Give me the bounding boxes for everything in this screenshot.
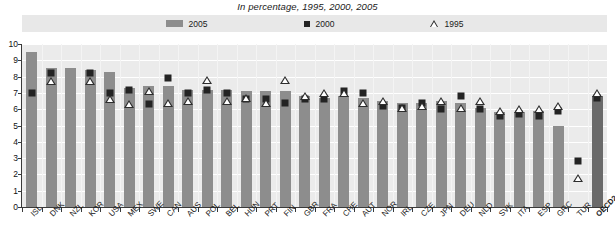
vertical-gridline [510,44,511,207]
bar-grc [553,126,564,208]
y-axis-tick-label: 2 [2,169,18,179]
vertical-gridline [42,44,43,207]
marker-1995-gbr [300,92,310,100]
marker-1995-bel [222,97,232,105]
y-axis-tick-label: 6 [2,104,18,114]
bar-swatch-icon [166,20,183,27]
vertical-gridline [178,44,179,207]
y-axis-tick [18,93,22,94]
legend-item-2005: 2005 [166,19,208,29]
bar-aus [182,90,193,207]
marker-2000-aut [360,89,367,96]
bar-irl [397,103,408,207]
marker-2000-kor [87,70,94,77]
marker-1995-mex [124,100,134,108]
bar-prt [260,91,271,207]
y-axis-tick [18,158,22,159]
marker-2000-swe [145,101,152,108]
marker-1995-swe [144,87,154,95]
bar-che [338,96,349,207]
vertical-gridline [61,44,62,207]
bar-kor [85,70,96,207]
vertical-gridline [490,44,491,207]
marker-1995-deu [456,104,466,112]
y-axis-tick-label: 7 [2,88,18,98]
vertical-gridline [568,44,569,207]
marker-2000-tur [574,158,581,165]
x-axis-tick [22,208,23,212]
bar-bel [221,90,232,207]
vertical-gridline [81,44,82,207]
vertical-gridline [295,44,296,207]
marker-1995-cze [417,102,427,110]
marker-1995-oecd24 [592,89,602,97]
y-axis-tick [18,77,22,78]
marker-1995-aus [183,97,193,105]
vertical-gridline [139,44,140,207]
y-axis-tick [18,126,22,127]
vertical-gridline [588,44,589,207]
bar-hun [241,91,252,207]
bar-nor [377,101,388,207]
bar-pol [202,90,213,207]
y-axis-tick-label: 10 [2,39,18,49]
marker-1995-prt [261,99,271,107]
legend-item-2000: 2000 [304,19,335,29]
y-axis-tick-label: 0 [2,202,18,212]
bar-esp [533,111,544,207]
vertical-gridline [393,44,394,207]
y-axis-tick [18,109,22,110]
chart-legend: 2005 2000 1995 [22,15,607,32]
marker-2000-nld [477,106,484,113]
plot-area [22,44,607,207]
marker-1995-nor [378,97,388,105]
bar-nld [475,108,486,207]
marker-1995-ita [514,105,524,113]
vertical-gridline [432,44,433,207]
marker-1995-grc [553,102,563,110]
vertical-gridline [159,44,160,207]
bar-svk [494,112,505,207]
y-axis-tick [18,174,22,175]
marker-1995-tur [573,174,583,182]
y-axis-tick [18,191,22,192]
bar-fin [280,91,291,207]
legend-label-1995: 1995 [444,19,463,29]
legend-item-1995: 1995 [430,19,463,29]
vertical-gridline [451,44,452,207]
vertical-gridline [237,44,238,207]
marker-2000-can [165,75,172,82]
vertical-gridline [256,44,257,207]
marker-1995-fin [280,76,290,84]
bar-cze [416,103,427,207]
legend-label-2000: 2000 [316,19,335,29]
y-axis-tick-label: 9 [2,55,18,65]
marker-2000-isl [28,89,35,96]
marker-1995-jpn [436,97,446,105]
marker-1995-nld [475,97,485,105]
marker-2000-dnk [48,70,55,77]
marker-2000-deu [457,93,464,100]
marker-2000-jpn [438,106,445,113]
vertical-gridline [529,44,530,207]
marker-1995-svk [495,107,505,115]
marker-2000-pol [204,86,211,93]
chart-root: In percentage, 1995, 2000, 2005 2005 200… [0,0,615,251]
bar-dnk [46,68,57,207]
marker-1995-esp [534,105,544,113]
marker-2000-fra [321,96,328,103]
bar-isl [26,52,37,207]
vertical-gridline [198,44,199,207]
marker-2000-aus [184,89,191,96]
y-axis-tick-label: 3 [2,153,18,163]
y-axis-tick-label: 8 [2,72,18,82]
vertical-gridline [412,44,413,207]
marker-1995-can [163,99,173,107]
vertical-gridline [276,44,277,207]
vertical-gridline [315,44,316,207]
bar-oecd24 [592,96,603,207]
y-axis-labels: 109876543210 [0,0,18,251]
y-axis-tick-label: 1 [2,186,18,196]
chart-subtitle: In percentage, 1995, 2000, 2005 [0,1,615,12]
y-axis-tick-label: 4 [2,137,18,147]
